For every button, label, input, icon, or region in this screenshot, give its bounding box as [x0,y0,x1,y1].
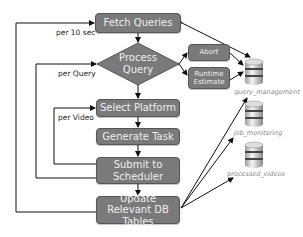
fetch-queries-label: Fetch Queries [104,17,173,29]
loop-label-per-10-sec: per 10 sec [56,28,95,37]
submit-to-scheduler-node: Submit to Scheduler [96,157,180,184]
loop-label-per-video: per Video [58,113,94,122]
runtime-estimate-node: Runtime Estimate [188,67,230,89]
update-db-tables-node: Update Relevant DB Tables [96,196,180,224]
update-db-tables-label: Update Relevant DB Tables [98,193,178,228]
loop-label-per-query: per Query [58,69,96,78]
runtime-estimate-label: Runtime Estimate [192,70,226,86]
db-label-processed-videos: processed_videos [227,170,285,178]
db-label-query-management: query_management [234,88,300,96]
process-query-label: Process Query [115,52,161,76]
generate-task-node: Generate Task [96,128,180,145]
db-label-job-monitoring: job_monitoring [234,129,283,137]
submit-to-scheduler-label: Submit to Scheduler [103,159,173,182]
process-query-node: Process Query [97,43,179,85]
fetch-queries-node: Fetch Queries [95,13,181,33]
abort-node: Abort [188,44,230,61]
generate-task-label: Generate Task [102,131,173,143]
select-platform-node: Select Platform [96,99,180,117]
abort-label: Abort [199,48,218,56]
select-platform-label: Select Platform [100,102,176,114]
database-icons [245,59,263,168]
